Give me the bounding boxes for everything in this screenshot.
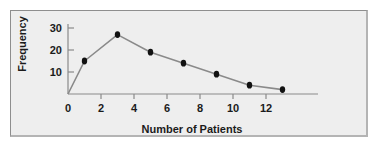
data-point-marker: [280, 86, 285, 93]
x-tick-label-12: 12: [254, 103, 278, 114]
x-tick-label-8: 8: [188, 103, 212, 114]
x-tick-label-2: 2: [89, 103, 113, 114]
data-point-marker: [148, 49, 153, 56]
y-tick-label-30: 30: [38, 23, 62, 34]
data-point-marker: [181, 60, 186, 67]
data-point-marker: [214, 71, 219, 78]
y-tick-label-20: 20: [38, 45, 62, 56]
x-axis-label: Number of Patients: [68, 123, 316, 135]
data-point-marker: [247, 82, 252, 89]
x-tick-label-10: 10: [221, 103, 245, 114]
y-tick-label-10: 10: [38, 67, 62, 78]
y-axis-label: Frequency: [16, 8, 28, 80]
chart-figure: 30 20 10 0 2 4 6 8 10 12 Number of Patie…: [0, 0, 380, 149]
x-tick-label-6: 6: [155, 103, 179, 114]
data-point-marker: [115, 31, 120, 38]
x-tick-label-4: 4: [122, 103, 146, 114]
x-tick-label-0: 0: [56, 103, 80, 114]
data-point-marker: [82, 58, 87, 65]
